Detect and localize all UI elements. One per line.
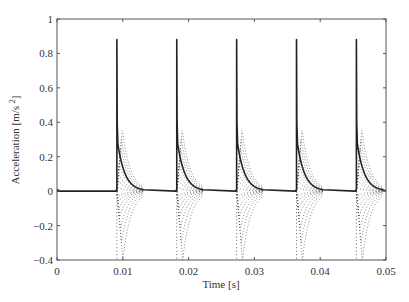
y-tick-label: 0.4 — [39, 116, 53, 128]
chart: 00.010.020.030.040.05 −0.4−0.200.20.40.6… — [0, 0, 409, 302]
y-tick-label: 0.6 — [39, 82, 53, 94]
plot-frame — [57, 19, 386, 260]
y-tick-label: 0.2 — [39, 151, 53, 163]
x-tick-label: 0.05 — [376, 265, 396, 277]
x-tick-labels: 00.010.020.030.040.05 — [54, 265, 396, 277]
y-tick-label: 0 — [48, 185, 54, 197]
y-tick-label: −0.2 — [33, 220, 53, 232]
y-tick-label: −0.4 — [33, 254, 53, 266]
dotted-series — [117, 131, 383, 260]
y-tick-label: 0.8 — [39, 47, 53, 59]
y-tick-label: 1 — [48, 13, 54, 25]
axis-ticks — [57, 19, 386, 260]
solid-series — [57, 40, 386, 191]
y-tick-labels: −0.4−0.200.20.40.60.81 — [33, 13, 53, 266]
x-tick-label: 0.01 — [113, 265, 132, 277]
x-tick-label: 0.03 — [245, 265, 265, 277]
x-axis-label: Time [s] — [202, 278, 239, 290]
x-tick-label: 0 — [54, 265, 60, 277]
y-axis-label: Acceleration [m/s 2] — [8, 96, 21, 185]
x-tick-label: 0.02 — [179, 265, 198, 277]
x-tick-label: 0.04 — [311, 265, 331, 277]
